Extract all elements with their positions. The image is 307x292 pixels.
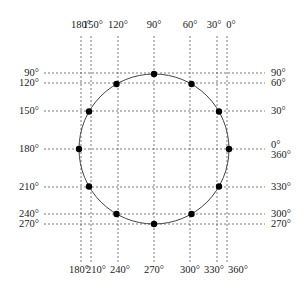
angle-point-270 [151, 221, 157, 227]
angle-point-120 [113, 81, 119, 87]
top-label: 90° [147, 19, 162, 30]
right-angle-labels: 90°60°30°0°360°330°300°270° [271, 67, 291, 229]
angle-point-0 [226, 146, 232, 152]
right-label: 270° [271, 218, 291, 229]
angle-point-180 [76, 146, 82, 152]
unit-circle-diagram: 180°150°120°90°60°30°0° 180°210°240°270°… [0, 0, 307, 292]
left-label: 120° [19, 77, 39, 88]
bottom-label: 360° [228, 264, 248, 275]
right-label: 60° [271, 77, 286, 88]
right-label: 330° [271, 181, 291, 192]
top-label: 60° [183, 19, 198, 30]
right-label: 360° [271, 149, 291, 160]
bottom-label: 210° [86, 264, 106, 275]
angle-point-240 [113, 211, 119, 217]
angle-point-30 [216, 108, 222, 114]
left-angle-labels: 90°120°150°180°210°240°270° [19, 67, 39, 229]
left-label: 150° [19, 105, 39, 116]
angle-point-300 [188, 211, 194, 217]
top-angle-labels: 180°150°120°90°60°30°0° [71, 19, 236, 30]
bottom-label: 240° [110, 264, 130, 275]
top-label: 120° [108, 19, 128, 30]
angle-point-150 [86, 108, 92, 114]
bottom-angle-labels: 180°210°240°270°300°330°360° [69, 264, 248, 275]
left-label: 270° [19, 218, 39, 229]
left-label: 210° [19, 181, 39, 192]
bottom-label: 270° [144, 264, 164, 275]
right-label: 30° [271, 105, 286, 116]
top-label: 30° [207, 19, 222, 30]
left-label: 180° [19, 143, 39, 154]
top-label: 150° [83, 19, 103, 30]
angle-point-330 [216, 183, 222, 189]
angle-point-210 [86, 183, 92, 189]
top-label: 0° [226, 19, 235, 30]
bottom-label: 330° [204, 264, 224, 275]
bottom-label: 300° [180, 264, 200, 275]
angle-point-60 [188, 81, 194, 87]
angle-point-90 [151, 71, 157, 77]
